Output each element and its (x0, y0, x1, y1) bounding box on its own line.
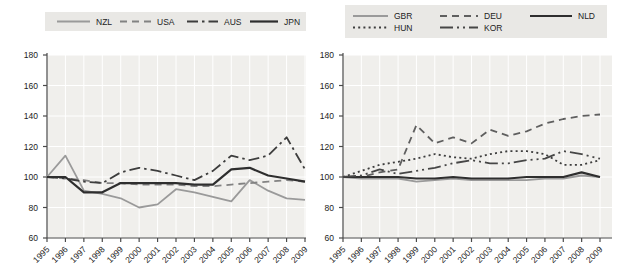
legend-label: JPN (284, 17, 300, 27)
y-tick-label: 160 (24, 81, 38, 91)
x-tick-label: 1998 (86, 244, 107, 265)
x-tick-labels: 1995199619971998199920002001200220032004… (327, 244, 605, 265)
y-tick-label: 120 (320, 142, 334, 152)
y-tick-label: 100 (320, 172, 334, 182)
x-tick-label: 2007 (252, 244, 273, 265)
y-tick-label: 80 (325, 203, 335, 213)
x-tick-label: 2002 (160, 244, 181, 265)
legend-label: GBR (394, 11, 412, 21)
y-tick-label: 60 (325, 233, 335, 243)
left-chart-svg: 6080100120140160180199519961997199819992… (0, 0, 310, 274)
x-tick-label: 1996 (345, 244, 366, 265)
right-chart-panel: 6080100120140160180199519961997199819992… (310, 0, 620, 274)
x-tick-label: 2006 (234, 244, 255, 265)
left-chart-panel: 6080100120140160180199519961997199819992… (0, 0, 310, 274)
x-tick-label: 2007 (547, 244, 568, 265)
x-tick-label: 2009 (289, 244, 310, 265)
x-tick-label: 2004 (492, 244, 513, 265)
legend-label: USA (157, 17, 175, 27)
x-tick-label: 1996 (49, 244, 70, 265)
y-tick-label: 180 (320, 50, 334, 60)
x-tick-label: 2005 (215, 244, 236, 265)
y-tick-label: 140 (24, 111, 38, 121)
y-tick-label: 180 (24, 50, 38, 60)
x-tick-label: 1995 (327, 244, 348, 265)
x-tick-label: 2000 (123, 244, 144, 265)
legend: NZLUSAAUSJPN (45, 12, 306, 31)
x-tick-label: 1997 (364, 244, 385, 265)
y-tick-labels: 6080100120140160180 (320, 50, 334, 243)
legend-label: NZL (96, 17, 112, 27)
x-tick-label: 1999 (105, 244, 126, 265)
x-tick-label: 2001 (437, 244, 458, 265)
x-tick-label: 2001 (142, 244, 163, 265)
x-tick-label: 1998 (382, 244, 403, 265)
legend-label: NLD (578, 11, 595, 21)
x-tick-label: 1995 (31, 244, 52, 265)
y-tick-label: 160 (320, 81, 334, 91)
x-tick-label: 2005 (511, 244, 532, 265)
y-tick-label: 80 (29, 203, 39, 213)
x-tick-label: 1999 (400, 244, 421, 265)
x-tick-label: 2002 (455, 244, 476, 265)
x-tick-label: 2003 (178, 244, 199, 265)
x-tick-label: 2008 (271, 244, 292, 265)
y-tick-label: 140 (320, 111, 334, 121)
y-tick-label: 120 (24, 142, 38, 152)
legend-background (345, 5, 607, 38)
x-tick-label: 2009 (584, 244, 605, 265)
x-tick-label: 2006 (529, 244, 550, 265)
legend-label: DEU (484, 11, 502, 21)
y-tick-labels: 6080100120140160180 (24, 50, 38, 243)
x-tick-label: 2003 (474, 244, 495, 265)
figure: 6080100120140160180199519961997199819992… (0, 0, 620, 274)
x-tick-labels: 1995199619971998199920002001200220032004… (31, 244, 310, 265)
x-tick-label: 1997 (68, 244, 89, 265)
legend-label: HUN (394, 23, 412, 33)
legend: GBRDEUNLDHUNKOR (345, 5, 607, 38)
y-tick-label: 60 (29, 233, 39, 243)
legend-label: AUS (224, 17, 242, 27)
x-tick-label: 2004 (197, 244, 218, 265)
x-tick-label: 2008 (566, 244, 587, 265)
right-chart-svg: 6080100120140160180199519961997199819992… (310, 0, 620, 274)
x-tick-label: 2000 (419, 244, 440, 265)
legend-label: KOR (484, 23, 502, 33)
y-tick-label: 100 (24, 172, 38, 182)
